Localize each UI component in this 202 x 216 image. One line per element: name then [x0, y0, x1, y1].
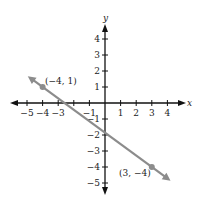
y-tick-label: −3	[87, 146, 101, 156]
x-tick-label: 3	[149, 108, 155, 118]
point-label-2: (3, −4)	[119, 168, 151, 178]
x-axis-left-arrow-icon	[10, 100, 18, 106]
y-tick-label: 4	[94, 34, 100, 44]
x-tick-label: −3	[52, 108, 66, 118]
coordinate-graph: −5−4−3−11234 4321−1−2−3−4−5 x y (−4, 1) …	[0, 0, 202, 216]
y-tick-label: 1	[94, 82, 100, 92]
x-tick-label: 2	[133, 108, 139, 118]
y-axis-down-arrow-icon	[102, 187, 108, 195]
y-tick-label: −2	[87, 130, 100, 140]
x-axis-label: x	[187, 98, 192, 108]
y-axis-label: y	[102, 13, 109, 23]
x-axis-right-arrow-icon	[178, 100, 186, 106]
y-tick-label: −5	[87, 178, 101, 188]
y-axis-up-arrow-icon	[102, 24, 108, 32]
x-tick-label: −5	[20, 108, 34, 118]
y-tick-label: −4	[87, 162, 101, 172]
x-tick-label: 1	[118, 108, 124, 118]
y-tick-label: 3	[94, 50, 100, 60]
y-tick-label: 2	[94, 66, 100, 76]
x-tick-label: −4	[36, 108, 50, 118]
x-tick-label: 4	[165, 108, 171, 118]
y-tick-label: −1	[87, 114, 100, 124]
point-label-1: (−4, 1)	[45, 76, 77, 86]
